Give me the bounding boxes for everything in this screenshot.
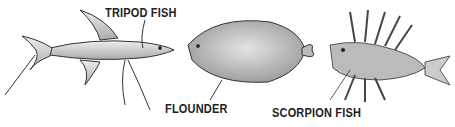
tripod-fish-drawing xyxy=(5,10,174,110)
flounder-drawing xyxy=(188,21,314,100)
scorpion-fish-drawing xyxy=(330,10,450,102)
scorpion-fish-label: SCORPION FISH xyxy=(272,106,361,120)
tripod-fish-label: TRIPOD FISH xyxy=(105,6,177,20)
fish-illustration: TRIPOD FISH FLOUNDER SCORPION FISH xyxy=(0,0,455,127)
flounder-label: FLOUNDER xyxy=(165,102,228,116)
